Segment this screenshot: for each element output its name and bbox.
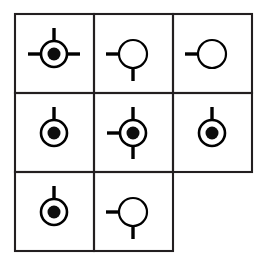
core-dot-r3c1	[48, 206, 61, 219]
ring-r1c3	[198, 40, 226, 68]
core-dot-r2c1	[48, 127, 61, 140]
ring-r1c2	[119, 40, 147, 68]
core-dot-r2c2	[127, 127, 140, 140]
core-dot-r1c1	[48, 48, 61, 61]
symbol-matrix-figure	[0, 0, 265, 264]
core-dot-r2c3	[206, 127, 219, 140]
ring-r3c2	[119, 198, 147, 226]
